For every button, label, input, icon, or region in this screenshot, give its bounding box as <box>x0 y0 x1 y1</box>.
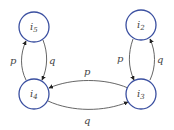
node-i5-sub: 5 <box>33 26 38 34</box>
node-i3: i3 <box>126 79 156 109</box>
node-i4-sub: 4 <box>32 93 37 101</box>
edge-i4-to-i3 <box>48 101 128 109</box>
edge-label-i3-i4: p <box>84 66 91 77</box>
edge-label-i4-i5: p <box>10 55 17 66</box>
state-diagram: p q p q p q i5 i2 i4 i3 <box>0 0 174 130</box>
edge-label-i4-i3: q <box>84 115 90 126</box>
edge-i4-to-i5 <box>22 41 27 80</box>
edge-label-i5-i4: q <box>49 55 55 66</box>
edge-label-i2-i3: p <box>117 53 124 64</box>
edge-i3-to-i4 <box>49 81 128 89</box>
node-i3-sub: 3 <box>140 93 145 101</box>
edge-i5-to-i4 <box>42 40 47 80</box>
edge-i3-to-i2 <box>150 39 155 80</box>
edge-i2-to-i3 <box>129 39 134 80</box>
edge-label-i3-i2: q <box>157 54 163 65</box>
node-i2: i2 <box>126 10 156 40</box>
node-i5: i5 <box>19 12 49 42</box>
node-i2-sub: 2 <box>139 24 145 32</box>
node-i4: i4 <box>19 79 49 109</box>
